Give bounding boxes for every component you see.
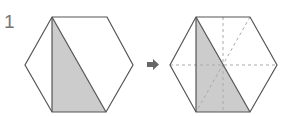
- hexagon-before: [25, 17, 133, 112]
- right-arrow-icon: [147, 59, 159, 70]
- hexagon-after: [170, 17, 277, 112]
- hexagon-diagram: [0, 0, 288, 116]
